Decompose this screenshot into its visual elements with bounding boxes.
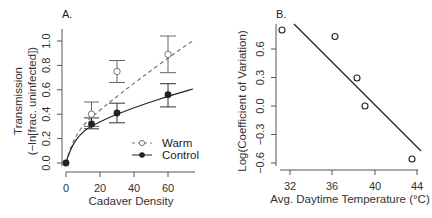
panel-a-label: A. <box>62 8 72 20</box>
panel-b-points <box>279 27 415 162</box>
control-points <box>63 91 172 166</box>
svg-text:−0.6: −0.6 <box>254 152 266 174</box>
svg-text:20: 20 <box>94 182 106 194</box>
control-error-bars <box>84 84 176 129</box>
panel-a-x-tick-labels: 0 20 40 60 <box>63 182 174 194</box>
warm-legend-marker <box>139 140 144 145</box>
svg-text:0.6: 0.6 <box>40 82 52 97</box>
figure: A. 0.0 0.2 0.4 0.6 0.8 1.0 <box>0 0 432 218</box>
panel-b-x-tick-labels: 32 36 40 44 <box>284 180 423 192</box>
panel-a-y-tick-labels: 0.0 0.2 0.4 0.6 0.8 1.0 <box>40 33 52 170</box>
svg-text:0.6: 0.6 <box>254 41 266 56</box>
panel-a-x-axis-title: Cadaver Density <box>88 195 173 207</box>
svg-text:0.4: 0.4 <box>40 107 52 122</box>
control-legend-marker <box>139 152 145 158</box>
panel-b: B. −0.6 −0.3 0.0 0.3 0.6 32 36 <box>236 8 430 205</box>
panel-a: A. 0.0 0.2 0.4 0.6 0.8 1.0 <box>12 8 199 207</box>
panel-a-y-axis-title-line2: (−ln[frac. uninfected]) <box>26 47 38 156</box>
svg-text:1.0: 1.0 <box>40 33 52 48</box>
panel-b-y-ticks <box>271 49 276 163</box>
panel-a-x-ticks <box>66 172 168 177</box>
warm-error-bars <box>84 36 176 126</box>
svg-text:44: 44 <box>411 180 423 192</box>
svg-text:60: 60 <box>162 182 174 194</box>
svg-text:0.2: 0.2 <box>40 131 52 146</box>
svg-text:0.0: 0.0 <box>254 98 266 113</box>
svg-text:36: 36 <box>326 180 338 192</box>
panel-a-legend: Warm Control <box>132 137 199 161</box>
svg-text:0.8: 0.8 <box>40 58 52 73</box>
svg-text:0: 0 <box>63 182 69 194</box>
panel-b-y-tick-labels: −0.6 −0.3 0.0 0.3 0.6 <box>254 41 266 174</box>
panel-b-y-axis-title: Log(Coefficient of Variation) <box>236 30 248 172</box>
panel-a-y-ticks <box>57 41 62 163</box>
panel-b-x-axis-title: Avg. Daytime Temperature (°C) <box>270 193 430 205</box>
svg-text:40: 40 <box>369 180 381 192</box>
warm-points <box>88 51 171 117</box>
svg-text:32: 32 <box>284 180 296 192</box>
svg-text:40: 40 <box>128 182 140 194</box>
legend-warm-label: Warm <box>162 137 192 149</box>
panel-b-label: B. <box>276 8 286 20</box>
panel-b-regression-line <box>294 24 421 151</box>
svg-text:0.3: 0.3 <box>254 70 266 85</box>
svg-text:−0.3: −0.3 <box>254 124 266 146</box>
svg-text:0.0: 0.0 <box>40 155 52 170</box>
panel-b-x-ticks <box>290 170 417 175</box>
panel-a-y-axis-title-line1: Transmission <box>12 67 24 135</box>
legend-control-label: Control <box>162 149 199 161</box>
